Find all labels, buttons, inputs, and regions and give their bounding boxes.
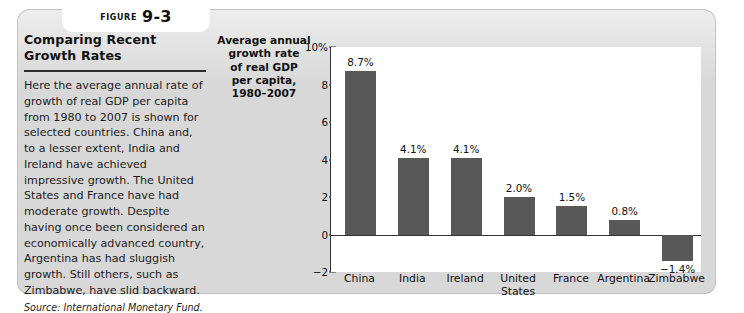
bar-ireland (451, 158, 482, 235)
bar-argentina (609, 220, 640, 235)
x-category-zimbabwe: Zimbabwe (648, 273, 705, 286)
bar-value-china: 8.7% (347, 56, 373, 68)
bar-value-united-states: 2.0% (506, 182, 532, 194)
caption-title: Comparing Recent Growth Rates (22, 32, 208, 64)
caption-source: Source: International Monetary Fund. (22, 302, 208, 313)
figure-number-tab: Figure 9-3 (62, 0, 210, 32)
x-axis-category-labels: ChinaIndiaIrelandUnitedStatesFranceArgen… (330, 273, 700, 307)
x-category-china: China (344, 273, 375, 286)
bar-zimbabwe (662, 235, 693, 261)
bar-value-ireland: 4.1% (453, 143, 479, 155)
y-axis-tick-labels: 10%86420−2 (296, 30, 328, 288)
bar-value-argentina: 0.8% (612, 205, 638, 217)
caption-divider (24, 70, 206, 72)
caption-column: Comparing Recent Growth Rates Here the a… (22, 32, 208, 313)
x-category-france: France (553, 273, 589, 286)
x-category-united-states: UnitedStates (500, 273, 535, 298)
bar-france (556, 206, 587, 234)
bar-united-states (504, 197, 535, 235)
y-tick-label-5: 0 (321, 229, 328, 241)
bar-value-india: 4.1% (400, 143, 426, 155)
figure-number: 9-3 (142, 7, 172, 26)
y-tick-label-3: 4 (321, 154, 328, 166)
x-category-ireland: Ireland (446, 273, 483, 286)
y-tick-label-4: 2 (321, 191, 328, 203)
bar-chart: Average annualgrowth rateof real GDPper … (212, 30, 708, 288)
bar-china (345, 71, 376, 234)
caption-body-text: Here the average annual rate of growth o… (22, 78, 208, 299)
y-tick-label-2: 6 (321, 116, 328, 128)
zero-axis-line (331, 235, 701, 236)
y-tick-label-1: 8 (321, 79, 328, 91)
bar-india (398, 158, 429, 235)
plot-area: 8.7%4.1%4.1%2.0%1.5%0.8%−1.4% (330, 47, 701, 272)
bar-value-france: 1.5% (559, 191, 585, 203)
x-category-argentina: Argentina (597, 273, 650, 286)
x-category-india: India (399, 273, 426, 286)
figure-label-word: Figure (100, 9, 137, 23)
y-tick-label-0: 10% (305, 41, 328, 53)
y-tick-label-6: −2 (313, 266, 328, 278)
